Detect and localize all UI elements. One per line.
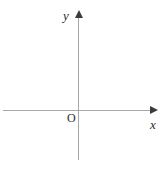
coordinate-plane-figure: x y O <box>0 0 166 170</box>
y-axis-label: y <box>63 9 69 22</box>
x-axis-arrow-icon <box>150 106 158 114</box>
origin-label: O <box>67 112 76 124</box>
y-axis-arrow-icon <box>75 10 83 18</box>
x-axis-label: x <box>150 118 156 131</box>
y-axis-line <box>78 16 79 160</box>
